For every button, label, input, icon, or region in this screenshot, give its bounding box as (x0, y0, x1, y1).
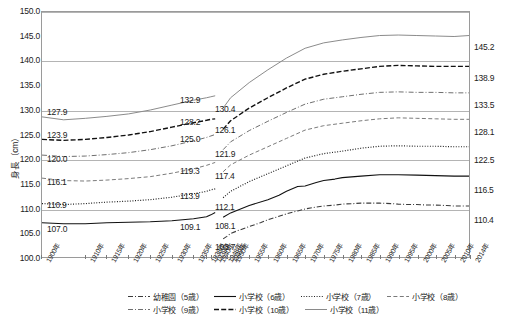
legend-item[interactable]: 小学校（11歳） (305, 304, 384, 315)
value-label-post-gap: 130.4 (215, 105, 235, 114)
x-axis-tick-mark (211, 255, 212, 259)
legend-item-label: 小学校（6歳） (239, 291, 289, 302)
legend-line-swatch-icon (387, 292, 409, 301)
legend-item-label: 小学校（7歳） (326, 291, 376, 302)
legend-line-swatch-icon (128, 305, 150, 314)
value-label-end: 133.5 (474, 101, 494, 110)
value-label-pre-gap: 113.9 (180, 192, 200, 201)
legend-item[interactable]: 小学校（6歳） (214, 291, 289, 302)
legend-line-swatch-icon (301, 292, 323, 301)
value-label-start: 110.9 (47, 201, 67, 210)
y-axis-tick: 140.0 (4, 56, 40, 64)
chart-legend: 幼稚園（5歳）小学校（6歳）小学校（7歳）小学校（8歳）小学校（9歳）小学校（1… (128, 290, 517, 316)
legend-item-label: 小学校（8歳） (412, 291, 462, 302)
series-line (223, 92, 469, 150)
x-axis-tick-mark (85, 255, 86, 259)
x-axis-tick-mark (287, 255, 288, 259)
legend-item-label: 小学校（9歳） (153, 304, 203, 315)
series-line (223, 35, 469, 108)
legend-row: 小学校（9歳）小学校（10歳）小学校（11歳） (128, 303, 517, 315)
value-label-post-gap: 121.9 (215, 150, 235, 159)
x-axis-tick-mark (150, 255, 151, 259)
value-label-end: 110.4 (474, 216, 494, 225)
value-label-start: 107.0 (47, 225, 67, 234)
legend-line-swatch-icon (214, 305, 236, 314)
legend-item[interactable]: 小学校（9歳） (128, 304, 203, 315)
legend-item[interactable]: 幼稚園（5歳） (128, 291, 203, 302)
y-axis-tick: 110.0 (4, 205, 40, 213)
value-label-pre-gap: 128.2 (180, 118, 200, 127)
value-label-end: 145.2 (474, 43, 494, 52)
y-axis-tick: 135.0 (4, 81, 40, 89)
value-label-start: 120.0 (47, 155, 67, 164)
value-label-post-gap: 126.1 (215, 126, 235, 135)
value-label-end: 116.5 (474, 186, 494, 195)
value-label-post-gap: 108.1 (215, 222, 235, 231)
value-label-start: 127.9 (47, 108, 67, 117)
x-axis-tick-mark (268, 255, 269, 259)
y-axis-tick: 120.0 (4, 155, 40, 163)
legend-row: 幼稚園（5歳）小学校（6歳）小学校（7歳）小学校（8歳） (128, 290, 517, 302)
value-label-post-gap: 117.4 (215, 172, 235, 181)
legend-line-swatch-icon (128, 292, 150, 301)
legend-item-label: 幼稚園（5歳） (153, 291, 203, 302)
legend-line-swatch-icon (305, 305, 327, 314)
plot-area (41, 11, 470, 258)
y-axis-tick: 125.0 (4, 131, 40, 139)
value-label-start: 116.1 (47, 178, 67, 187)
x-axis-tick-mark (418, 255, 419, 259)
legend-item[interactable]: 小学校（10歳） (214, 304, 294, 315)
value-label-pre-gap: 125.0 (180, 135, 200, 144)
chart-root: 身長（cm） 150.0145.0140.0135.0130.0125.0120… (0, 0, 517, 325)
series-line (223, 203, 469, 239)
value-label-pre-gap: 109.1 (180, 223, 200, 232)
legend-item[interactable]: 小学校（8歳） (387, 291, 462, 302)
value-label-start: 123.9 (47, 131, 67, 140)
x-axis-tick-mark (172, 255, 173, 259)
y-axis-tick: 130.0 (4, 106, 40, 114)
value-label-post-gap: 112.1 (215, 203, 235, 212)
legend-item-label: 小学校（11歳） (330, 304, 384, 315)
legend-line-swatch-icon (214, 292, 236, 301)
legend-item-label: 小学校（10歳） (239, 304, 294, 315)
value-label-pre-gap: 119.3 (180, 167, 200, 176)
series-line (223, 118, 469, 172)
value-label-end: 128.1 (474, 128, 494, 137)
y-axis-tick: 105.0 (4, 229, 40, 237)
series-line (223, 175, 469, 218)
value-label-end: 138.9 (474, 74, 494, 83)
value-label-end: 122.5 (474, 156, 494, 165)
series-line (223, 146, 469, 198)
x-axis-tick-mark (343, 255, 344, 259)
y-axis-tick: 115.0 (4, 180, 40, 188)
value-label-pre-gap: 132.9 (180, 96, 200, 105)
series-lines (42, 12, 469, 257)
legend-item[interactable]: 小学校（7歳） (301, 291, 376, 302)
x-axis-tick-mark (227, 255, 228, 259)
x-axis-tick-mark (399, 255, 400, 259)
y-axis-tick: 150.0 (4, 7, 40, 15)
y-axis-tick: 145.0 (4, 32, 40, 40)
